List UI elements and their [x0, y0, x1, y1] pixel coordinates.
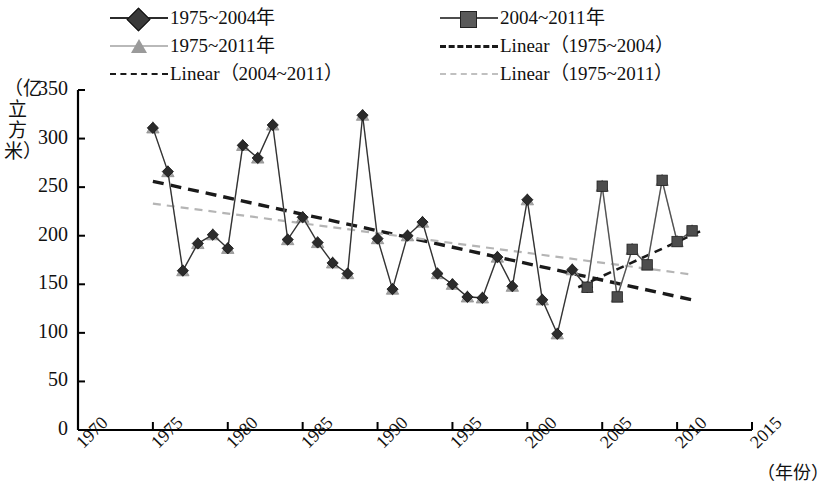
trendline-2 — [153, 204, 692, 275]
data-point-square — [582, 282, 592, 292]
plot-area — [0, 0, 828, 484]
y-tick-label: 150 — [24, 271, 68, 294]
y-tick-label: 350 — [24, 77, 68, 100]
data-point-square — [612, 292, 622, 302]
y-tick-label: 50 — [24, 368, 68, 391]
trendline-0 — [153, 181, 692, 300]
series-line-0 — [153, 115, 587, 333]
series-1 — [582, 175, 697, 302]
data-point-square — [672, 236, 682, 246]
data-point-square — [687, 226, 697, 236]
y-tick-label: 100 — [24, 320, 68, 343]
y-tick-label: 200 — [24, 223, 68, 246]
data-point-square — [642, 260, 652, 270]
series-0 — [147, 110, 593, 340]
data-point-square — [597, 181, 607, 191]
chart-container: 1975~2004年 2004~2011年 1975~2011年 — [0, 0, 828, 484]
data-point-square — [657, 175, 667, 185]
x-axis-title: （年份） — [757, 458, 828, 484]
y-tick-label: 0 — [24, 417, 68, 440]
y-tick-label: 250 — [24, 174, 68, 197]
data-point-square — [627, 244, 637, 254]
y-tick-label: 300 — [24, 126, 68, 149]
